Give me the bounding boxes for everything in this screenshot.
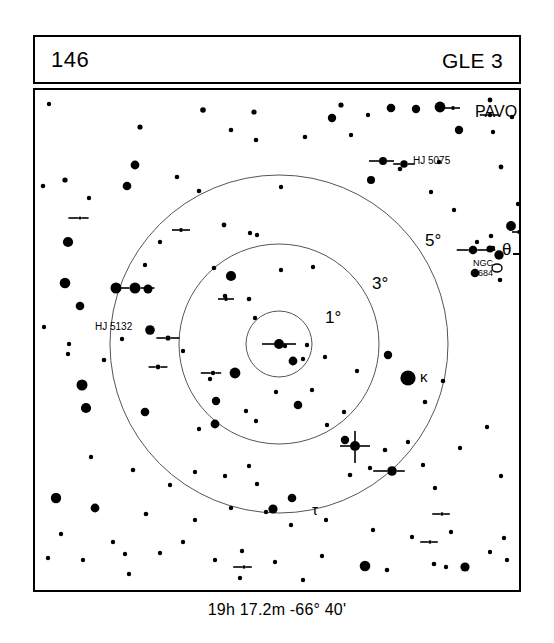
- star-marker: [76, 302, 85, 311]
- star-marker: [175, 175, 180, 180]
- chart-number: 146: [51, 49, 89, 71]
- star-marker: [305, 343, 309, 347]
- star-chart-page: 146 GLE 3 1°3°5° PAVOHJ 5075HJ 5132NGC66…: [0, 0, 554, 643]
- star-marker: [141, 408, 150, 417]
- star-marker: [506, 221, 516, 231]
- star-marker: [449, 530, 453, 534]
- star-marker: [273, 560, 277, 564]
- chart-label: κ: [420, 368, 428, 385]
- star-marker: [168, 483, 172, 487]
- star-marker: [248, 231, 252, 235]
- chart-label: PAVO: [475, 103, 517, 120]
- fov-circle-label-1deg: 1°: [325, 308, 341, 327]
- double-star-marker: [218, 297, 234, 301]
- double-star-marker: [262, 339, 296, 349]
- galaxy-symbol: [492, 264, 502, 272]
- star-marker: [131, 161, 140, 170]
- star-marker: [421, 463, 425, 467]
- star-marker: [144, 285, 153, 294]
- star-marker: [423, 400, 428, 405]
- star-marker: [444, 565, 448, 569]
- double-star-marker: [444, 106, 460, 110]
- deep-sky-object-markers: [492, 264, 502, 272]
- star-marker: [158, 551, 162, 555]
- star-marker: [62, 177, 67, 182]
- chart-label: 6684: [473, 268, 493, 278]
- star-marker: [499, 474, 503, 478]
- star-marker: [255, 482, 259, 486]
- fov-circle-label-5deg: 5°: [425, 231, 441, 250]
- double-star-marker: [172, 228, 190, 232]
- star-marker: [398, 167, 403, 172]
- star-marker: [60, 278, 71, 289]
- chart-label: HJ 5075: [413, 155, 451, 166]
- chart-code: GLE 3: [442, 49, 503, 70]
- star-marker: [268, 504, 277, 513]
- chart-label: θ: [502, 240, 511, 259]
- star-marker: [123, 552, 127, 556]
- star-marker: [127, 572, 131, 576]
- star-marker: [342, 410, 346, 414]
- star-marker: [200, 107, 206, 113]
- star-marker: [412, 105, 420, 113]
- starfield-plot: 1°3°5° PAVOHJ 5075HJ 5132NGC6684θκτ: [35, 90, 519, 590]
- star-marker: [247, 464, 251, 468]
- star-marker: [247, 297, 252, 302]
- chart-label: HJ 5132: [95, 321, 133, 332]
- star-marker: [516, 202, 519, 206]
- star-marker: [193, 470, 197, 474]
- star-marker: [387, 104, 396, 113]
- star-marker: [338, 102, 343, 107]
- star-marker: [143, 263, 147, 267]
- star-marker: [63, 237, 73, 247]
- star-marker: [208, 377, 212, 381]
- star-marker: [348, 473, 353, 478]
- star-marker: [367, 176, 375, 184]
- star-marker: [505, 558, 509, 562]
- star-marker: [102, 358, 107, 363]
- star-marker: [349, 133, 353, 137]
- star-marker: [131, 468, 136, 473]
- double-star-marker: [420, 540, 438, 544]
- star-marker: [91, 504, 100, 513]
- star-marker: [42, 325, 46, 329]
- star-marker: [489, 234, 494, 239]
- double-star-marker: [393, 160, 415, 168]
- edge-tick-marks: [35, 254, 519, 498]
- star-marker: [223, 474, 227, 478]
- star-marker: [460, 562, 469, 571]
- star-marker: [89, 455, 93, 459]
- star-marker: [400, 370, 415, 385]
- star-marker: [371, 528, 375, 532]
- star-marker: [193, 518, 197, 522]
- double-star-marker: [373, 466, 405, 476]
- star-marker: [212, 397, 220, 405]
- star-marker: [488, 98, 493, 103]
- double-star-marker: [149, 365, 168, 370]
- star-marker: [294, 401, 303, 410]
- star-marker: [46, 556, 50, 560]
- star-marker: [498, 278, 503, 283]
- coordinates-label: 19h 17.2m -66° 40': [0, 601, 554, 619]
- star-marker: [213, 558, 217, 562]
- double-star-marker: [340, 431, 370, 463]
- star-marker: [441, 379, 446, 384]
- double-star-marker: [512, 230, 519, 234]
- star-marker: [222, 223, 227, 228]
- star-marker: [212, 266, 217, 271]
- star-marker: [384, 351, 392, 359]
- star-marker: [59, 532, 63, 536]
- star-marker: [254, 419, 258, 423]
- star-marker: [229, 506, 233, 510]
- star-marker: [137, 124, 142, 129]
- star-marker: [303, 135, 308, 140]
- star-marker: [111, 540, 115, 544]
- star-marker: [158, 240, 162, 244]
- star-marker: [279, 185, 283, 189]
- star-marker: [475, 240, 479, 244]
- star-marker: [452, 208, 456, 212]
- star-marker: [226, 271, 236, 281]
- star-marker: [289, 523, 293, 527]
- star-marker: [383, 448, 388, 453]
- star-marker: [253, 316, 257, 320]
